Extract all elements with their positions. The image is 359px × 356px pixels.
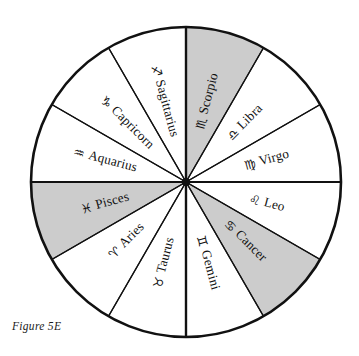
figure-caption: Figure 5E	[12, 320, 61, 332]
zodiac-wheel-figure: ♐ Sagittarius♏ Scorpio♎ Libra♍ Virgo♌ Le…	[0, 0, 359, 356]
zodiac-wheel-diagram: ♐ Sagittarius♏ Scorpio♎ Libra♍ Virgo♌ Le…	[0, 0, 359, 356]
wheel-center-hub	[182, 178, 190, 186]
